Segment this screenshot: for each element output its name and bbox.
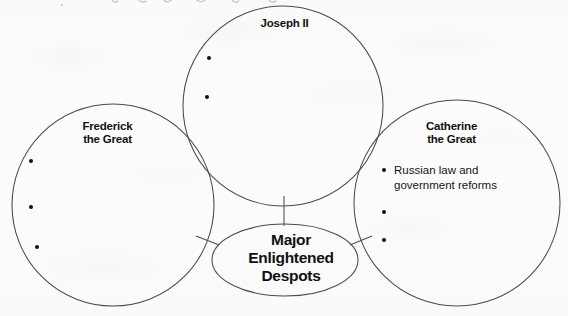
bullet-dot-frederick-1 <box>29 205 33 209</box>
circle-joseph <box>183 6 383 206</box>
bullet-dot-joseph-0 <box>207 56 211 60</box>
bullet-dot-frederick-0 <box>29 159 33 163</box>
worksheet-page: Joseph II Frederick the Great Catherine … <box>0 0 568 316</box>
center-node-label: Major Enlightened Despots <box>225 231 357 285</box>
circle-label-frederick: Frederick the Great <box>55 120 160 146</box>
bullet-dot-frederick-2 <box>35 245 39 249</box>
bullet-entry-catherine-0[interactable]: Russian law and government reforms <box>394 163 528 192</box>
bullet-dot-catherine-2 <box>382 238 386 242</box>
circle-label-joseph: Joseph II <box>237 17 332 30</box>
bullet-dot-catherine-0 <box>382 168 386 172</box>
bullet-dot-catherine-1 <box>382 210 386 214</box>
bullet-dot-joseph-1 <box>205 95 209 99</box>
circle-label-catherine: Catherine the Great <box>399 120 504 146</box>
